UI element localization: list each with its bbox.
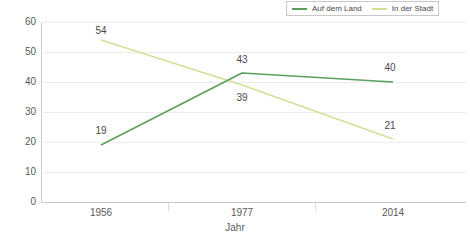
legend-swatch-in-der-stadt bbox=[372, 8, 387, 10]
line-chart: Auf dem Land In der Stadt 60 50 40 30 20… bbox=[0, 0, 470, 243]
data-label-stadt-1956: 54 bbox=[81, 26, 121, 36]
series-lines bbox=[41, 22, 466, 202]
y-tick-0: 0 bbox=[6, 197, 36, 207]
x-tick-separator-1 bbox=[168, 203, 169, 211]
legend-item-in-der-stadt[interactable]: In der Stadt bbox=[372, 4, 433, 13]
y-tick-40: 40 bbox=[6, 77, 36, 87]
data-label-stadt-1977: 39 bbox=[222, 93, 262, 103]
chart-legend: Auf dem Land In der Stadt bbox=[286, 1, 439, 16]
legend-label-in-der-stadt: In der Stadt bbox=[392, 4, 433, 13]
x-tick-1956: 1956 bbox=[71, 207, 131, 218]
y-tick-10: 10 bbox=[6, 167, 36, 177]
legend-item-auf-dem-land[interactable]: Auf dem Land bbox=[292, 4, 362, 13]
data-label-land-1977: 43 bbox=[222, 55, 262, 65]
legend-label-auf-dem-land: Auf dem Land bbox=[312, 4, 362, 13]
legend-swatch-auf-dem-land bbox=[292, 8, 307, 10]
x-axis-title: Jahr bbox=[0, 222, 470, 233]
x-tick-1977: 1977 bbox=[212, 207, 272, 218]
data-label-land-2014: 40 bbox=[370, 63, 410, 73]
y-axis-tick-labels: 60 50 40 30 20 10 0 bbox=[0, 0, 36, 243]
x-tick-separator-2 bbox=[315, 203, 316, 211]
y-tick-30: 30 bbox=[6, 107, 36, 117]
data-label-stadt-2014: 21 bbox=[370, 121, 410, 131]
data-label-land-1956: 19 bbox=[81, 126, 121, 136]
x-axis-line bbox=[41, 202, 466, 203]
y-tick-20: 20 bbox=[6, 137, 36, 147]
series-line-auf-dem-land bbox=[101, 73, 393, 145]
y-tick-60: 60 bbox=[6, 17, 36, 27]
x-tick-2014: 2014 bbox=[363, 207, 423, 218]
plot-area bbox=[41, 22, 466, 202]
y-tick-50: 50 bbox=[6, 47, 36, 57]
